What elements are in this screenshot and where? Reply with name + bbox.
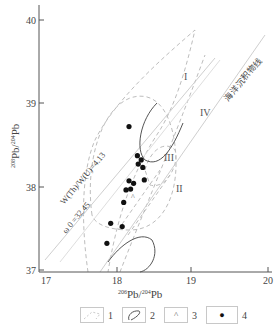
solid-curve-swatch-icon <box>122 307 146 323</box>
data-point <box>128 187 133 192</box>
region-label-ii: II <box>176 183 183 194</box>
field-circle-outline <box>90 96 176 230</box>
pb-isotope-scatter-chart: 40 39 38 37 17 18 19 20 206Pb/204Pb 208P… <box>0 0 279 300</box>
legend: 1 2 ^ 3 ● 4 <box>80 303 251 327</box>
y-tick-38: 38 <box>26 182 36 193</box>
y-axis-title: 208Pb/204Pb <box>9 123 21 168</box>
data-point <box>139 157 144 162</box>
x-tick-17: 17 <box>41 275 51 286</box>
svg-text:208Pb/204Pb: 208Pb/204Pb <box>9 123 21 168</box>
x-tick-19: 19 <box>186 275 196 286</box>
y-tick-39: 39 <box>26 98 36 109</box>
reference-lines <box>45 35 265 272</box>
legend-item-1: 1 <box>80 307 117 323</box>
data-point <box>126 178 131 183</box>
dashed-field-swatch-icon <box>80 307 104 323</box>
y-tick-37: 37 <box>26 265 36 276</box>
dot-swatch-icon: ● <box>206 306 238 324</box>
x-tick-20: 20 <box>263 275 273 286</box>
data-point <box>123 187 128 192</box>
legend-item-2: 2 <box>122 307 159 323</box>
region-label-iii: III <box>164 152 174 163</box>
region-label-iv: IV <box>200 107 211 118</box>
y-tick-40: 40 <box>26 15 36 26</box>
data-points <box>104 124 147 246</box>
data-point <box>104 241 109 246</box>
dashed-fields <box>84 30 205 272</box>
x-tick-18: 18 <box>112 275 122 286</box>
data-point <box>142 177 147 182</box>
data-point <box>131 181 136 186</box>
region-label-i: I <box>184 71 187 82</box>
curve-ii-lower <box>108 237 155 272</box>
ratio-line-label: W(Th)/W(U)=4.13 <box>58 150 107 206</box>
data-point <box>108 221 113 226</box>
data-point <box>140 165 145 170</box>
svg-text:206Pb/204Pb: 206Pb/204Pb <box>118 288 163 300</box>
data-point <box>135 153 140 158</box>
ocean-sediment-line <box>100 35 265 272</box>
legend-item-3: ^ 3 <box>164 307 201 323</box>
caret-swatch-icon: ^ <box>164 307 188 323</box>
axes <box>39 5 272 272</box>
caret-marker: ^ <box>131 193 135 202</box>
data-point <box>121 200 126 205</box>
ocean-sediment-line-label: 海洋沉积物线 <box>222 55 264 103</box>
data-point <box>120 224 125 229</box>
data-point <box>136 162 141 167</box>
data-point <box>126 124 131 129</box>
x-axis-title: 206Pb/204Pb <box>118 288 163 300</box>
legend-item-4: ● 4 <box>206 306 251 324</box>
